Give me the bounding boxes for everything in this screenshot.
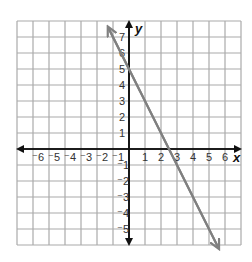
y-tick-label: 3 [119,95,125,107]
y-tick-label: 2 [119,111,125,123]
y-tick-label: 5 [119,63,125,75]
x-tick-label: 5 [206,151,212,163]
y-axis-label: y [134,21,143,36]
x-tick-label: ⁻2 [96,151,108,163]
y-tick-label: ⁻1 [117,159,129,171]
x-axis-label: x [232,150,241,165]
y-tick-label: 7 [119,31,125,43]
x-tick-label: ⁻3 [80,151,92,163]
y-tick-label: ⁻4 [117,207,129,219]
x-tick-label: 2 [158,151,164,163]
y-tick-label: 4 [119,79,125,91]
x-tick-label: 4 [190,151,196,163]
coordinate-plane: ⁻6⁻5⁻4⁻3⁻2⁻11234567654321⁻1⁻2⁻3⁻4⁻5 x y [0,0,252,262]
x-tick-label: 1 [142,151,148,163]
x-tick-label: 6 [222,151,228,163]
x-tick-label: ⁻5 [48,151,60,163]
x-tick-label: ⁻4 [64,151,76,163]
y-tick-label: 1 [119,127,125,139]
y-tick-label: ⁻2 [117,175,129,187]
y-tick-label: ⁻5 [117,223,129,235]
y-tick-label: ⁻3 [117,191,129,203]
x-tick-label: ⁻6 [32,151,44,163]
